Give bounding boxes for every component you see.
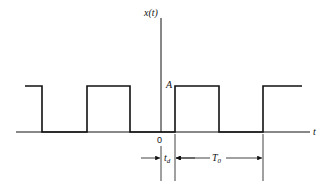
pulse-train-diagram: x(t) t 0 A td T0 <box>0 0 327 194</box>
origin-label: 0 <box>157 135 162 145</box>
x-axis-label: t <box>313 126 316 137</box>
y-axis-label: x(t) <box>143 7 159 19</box>
amplitude-label: A <box>165 79 173 90</box>
period-label: T0 <box>212 152 222 165</box>
diagram-canvas: x(t) t 0 A td T0 <box>0 0 327 194</box>
delay-label: td <box>164 152 171 165</box>
pulse-waveform <box>25 86 302 132</box>
